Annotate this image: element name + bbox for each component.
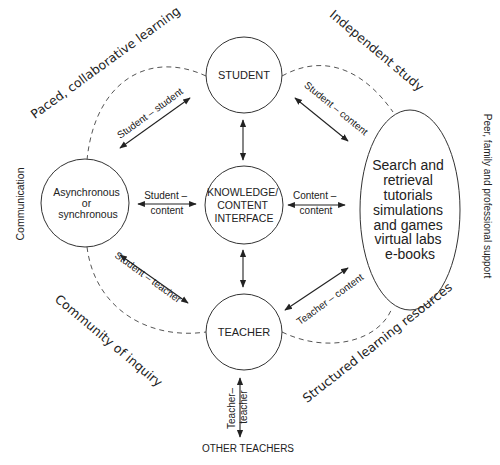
other-teachers-label: OTHER TEACHERS bbox=[202, 443, 294, 454]
teacher-label: TEACHER bbox=[218, 326, 271, 338]
edge-label-student-content-left: Student – content bbox=[144, 190, 190, 216]
region-label-community: Community of inquiry bbox=[52, 291, 166, 390]
region-label-peer-support: Peer, family and professional support bbox=[482, 114, 493, 279]
resources-label: Search and retrieval tutorials simulatio… bbox=[372, 157, 448, 262]
edge-label-teacher-teacher: Teacher– teacher bbox=[226, 385, 249, 429]
region-label-communication: Communication bbox=[14, 167, 26, 240]
edge-label-content-content: Content – content bbox=[293, 190, 339, 216]
region-label-independent: Independent study bbox=[327, 7, 427, 95]
edge-label-student-teacher: Student – teacher bbox=[113, 250, 184, 306]
learning-interaction-diagram: STUDENT KNOWLEDGE/ CONTENT INTERFACE TEA… bbox=[0, 0, 500, 465]
knowledge-label: KNOWLEDGE/ CONTENT INTERFACE bbox=[207, 186, 281, 224]
dashed-arc-community bbox=[87, 247, 206, 333]
edge-label-student-student: Student – student bbox=[115, 86, 185, 141]
student-label: STUDENT bbox=[218, 69, 270, 81]
edge-label-student-content: Student – content bbox=[302, 79, 370, 137]
